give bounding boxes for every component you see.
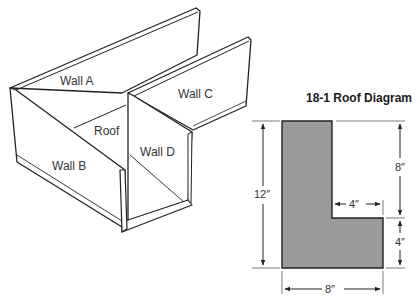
diagram-canvas: Wall A Wall C Roof Wall D Wall B 18-1 Ro… [0,0,420,298]
dim-upper-height: 8″ [395,161,405,173]
wall-c-label: Wall C [178,87,213,101]
wall-d-label: Wall D [140,145,175,159]
wall-a-label: Wall A [60,74,94,88]
dim-lower-height: 4″ [395,236,405,248]
dim-total-height: 12″ [254,188,270,200]
roof-diagram-title: 18-1 Roof Diagram [306,91,412,105]
wall-b-label: Wall B [52,159,86,173]
roof-label: Roof [94,124,120,138]
dim-total-width: 8″ [325,283,335,295]
roof-shape [282,121,383,268]
wall-model [10,8,251,232]
dim-notch-width: 4″ [349,198,359,210]
